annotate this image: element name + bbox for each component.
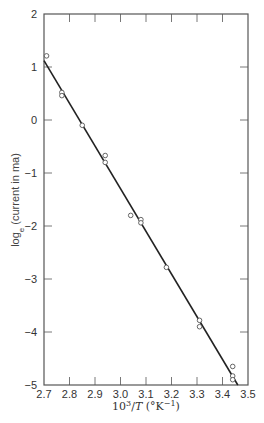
y-tick-label: −5 (24, 379, 37, 391)
chart: 2.72.82.93.03.13.23.33.43.5 210−1−2−3−4−… (0, 0, 264, 423)
x-axis-ticks: 2.72.82.93.03.13.23.33.43.5 (36, 14, 255, 400)
y-tick-label: 2 (31, 8, 37, 20)
y-axis-ticks: 210−1−2−3−4−5 (24, 8, 248, 391)
y-tick-label: −2 (24, 220, 37, 232)
data-point (139, 221, 144, 226)
x-tick-label: 2.9 (87, 388, 102, 400)
data-point (230, 364, 235, 369)
y-tick-label: −4 (24, 326, 37, 338)
y-axis-title: loge (current in ma) (9, 153, 26, 247)
data-point (230, 377, 235, 382)
y-tick-label: −3 (24, 273, 37, 285)
y-tick-label: 0 (31, 114, 37, 126)
data-point (197, 318, 202, 323)
data-point (103, 153, 108, 158)
data-point (197, 324, 202, 329)
data-point (103, 160, 108, 165)
x-tick-label: 3.1 (138, 388, 153, 400)
x-tick-label: 3.5 (240, 388, 255, 400)
x-tick-label: 2.7 (36, 388, 51, 400)
data-point (164, 265, 169, 270)
y-tick-label: 1 (31, 61, 37, 73)
plot-frame (44, 14, 248, 385)
x-axis-title: 103/T (°K−1) (112, 399, 180, 414)
x-tick-label: 2.8 (62, 388, 77, 400)
data-point (60, 93, 65, 98)
data-point (128, 213, 133, 218)
data-point (80, 123, 85, 128)
x-tick-label: 3.3 (189, 388, 204, 400)
y-tick-label: −1 (24, 167, 37, 179)
x-tick-label: 3.4 (215, 388, 230, 400)
data-point (44, 54, 49, 59)
